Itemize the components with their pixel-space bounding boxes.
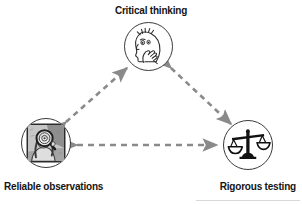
node-reliable-observations[interactable] [21, 118, 71, 168]
node-label-rigorous-testing: Rigorous testing [220, 181, 296, 193]
node-label-reliable-observations: Reliable observations [4, 181, 103, 193]
connector-thinking-to-testing [171, 68, 231, 124]
magnifying-glass-observer-icon [22, 119, 70, 167]
balance-scale-icon [224, 121, 272, 169]
diagram-root: Critical thinking Reliable observations … [0, 0, 302, 205]
node-critical-thinking[interactable] [124, 22, 173, 71]
connector-observations-to-thinking [66, 68, 127, 122]
thinking-head-icon [125, 23, 172, 70]
page-edge-artifact [196, 200, 300, 201]
node-label-critical-thinking: Critical thinking [0, 5, 302, 17]
node-rigorous-testing[interactable] [223, 120, 273, 170]
